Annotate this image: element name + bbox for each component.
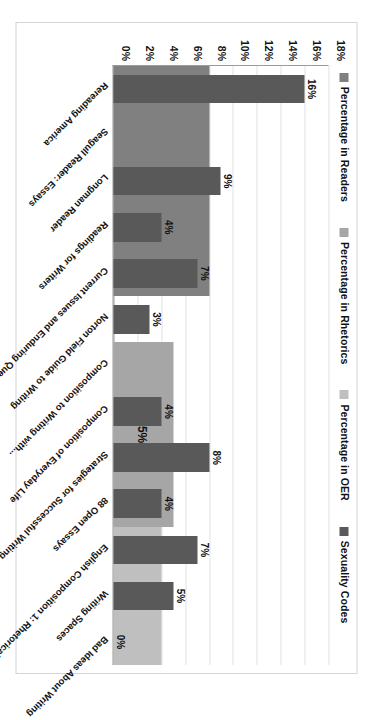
bar-value-label: 4%: [162, 404, 173, 418]
y-axis-tick-label: 14%: [286, 40, 298, 61]
group-band-value-label: 5%: [134, 426, 148, 443]
bar-value-label: 9%: [222, 174, 233, 188]
bar-value-label: 5%: [174, 589, 185, 603]
y-axis-tick-label: 6%: [191, 46, 203, 61]
bar[interactable]: 7%: [113, 536, 197, 565]
gridline: [304, 66, 305, 665]
y-axis-tick-label: 16%: [310, 40, 322, 61]
legend-label: Percentage in Readers: [338, 87, 350, 202]
y-axis-tick-label: 0%: [119, 46, 131, 61]
gridline: [328, 66, 329, 665]
legend-label: Percentage in OER: [338, 404, 350, 500]
bar-value-label: 16%: [305, 79, 316, 99]
bar[interactable]: 4%: [113, 397, 161, 426]
bar[interactable]: 8%: [113, 443, 209, 472]
bar[interactable]: 5%: [113, 582, 173, 611]
legend-swatch-icon: [340, 228, 349, 237]
legend-item[interactable]: Percentage in Readers: [338, 73, 350, 202]
legend-swatch-icon: [340, 390, 349, 399]
y-axis-tick-label: 2%: [143, 46, 155, 61]
y-axis-tick-label: 12%: [262, 40, 274, 61]
bar[interactable]: 4%: [113, 489, 161, 518]
category-label: Seagull Reader: Essays: [26, 126, 110, 210]
legend-swatch-icon: [340, 73, 349, 82]
bar-value-label: 8%: [210, 450, 221, 464]
gridline: [280, 66, 281, 665]
bar-value-label: 7%: [198, 543, 209, 557]
bar[interactable]: 7%: [113, 259, 197, 288]
bar-value-label: 7%: [198, 266, 209, 280]
y-axis-tick-label: 18%: [334, 40, 346, 61]
bar[interactable]: 16%: [113, 75, 304, 104]
bar-value-label: 4%: [162, 220, 173, 234]
y-axis-tick-label: 8%: [215, 46, 227, 61]
plot-area-wrapper: 18%16%14%12%10%8%6%4%2%0%8%5%4%16%9%4%7%…: [112, 65, 328, 665]
legend-label: Sexuality Codes: [338, 541, 350, 624]
gridline: [232, 66, 233, 665]
bar[interactable]: 3%: [113, 305, 149, 334]
legend-item[interactable]: Percentage in Rhetorics: [338, 228, 350, 365]
legend-swatch-icon: [340, 527, 349, 536]
y-axis-tick-label: 4%: [167, 46, 179, 61]
category-label: Composition to Writing with...: [7, 357, 110, 460]
y-axis-tick-label: 10%: [238, 40, 250, 61]
chart-frame: Percentage in ReadersPercentage in Rheto…: [15, 22, 357, 674]
gridline: [256, 66, 257, 665]
bar[interactable]: 4%: [113, 213, 161, 242]
legend-item[interactable]: Sexuality Codes: [338, 527, 350, 624]
legend-item[interactable]: Percentage in OER: [338, 390, 350, 500]
category-label: Bad Ideas About Writing: [25, 634, 110, 719]
legend-label: Percentage in Rhetorics: [338, 242, 350, 365]
bar-value-label: 4%: [162, 496, 173, 510]
bar-value-label: 3%: [150, 312, 161, 326]
bar-value-label: 0%: [114, 635, 125, 649]
category-axis-labels: Rereading AmericaSeagull Reader: EssaysL…: [16, 65, 112, 665]
category-label: Norton Field Guide to Writing: [9, 311, 110, 412]
chart-legend: Percentage in ReadersPercentage in Rheto…: [338, 23, 350, 673]
category-label: Composition of Everyday Life: [7, 403, 110, 506]
bar[interactable]: 9%: [113, 167, 221, 196]
plot-area: 18%16%14%12%10%8%6%4%2%0%8%5%4%16%9%4%7%…: [112, 65, 328, 665]
